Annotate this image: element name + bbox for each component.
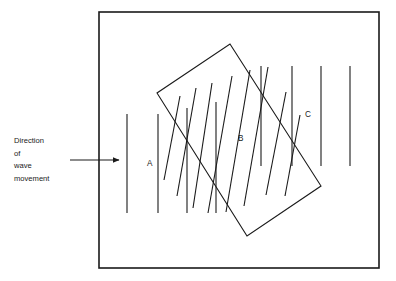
region-label-b: B — [238, 134, 244, 143]
wavefront-line — [266, 92, 286, 195]
direction-caption-line-4: movement — [14, 174, 50, 183]
direction-caption-line-3: wave — [13, 161, 32, 170]
direction-caption-line-1: Direction — [14, 136, 44, 145]
incident-wavefront-lines — [127, 102, 216, 213]
wave-refraction-diagram: Direction of wave movement A B C — [0, 0, 396, 281]
direction-caption-line-2: of — [14, 149, 21, 158]
figure-canvas: Direction of wave movement A B C — [0, 0, 396, 281]
wavefront-line — [244, 67, 268, 206]
wavefront-line — [193, 83, 212, 208]
region-label-a: A — [147, 159, 153, 168]
region-label-c: C — [305, 110, 311, 119]
refracted-wavefront-lines — [164, 67, 300, 213]
